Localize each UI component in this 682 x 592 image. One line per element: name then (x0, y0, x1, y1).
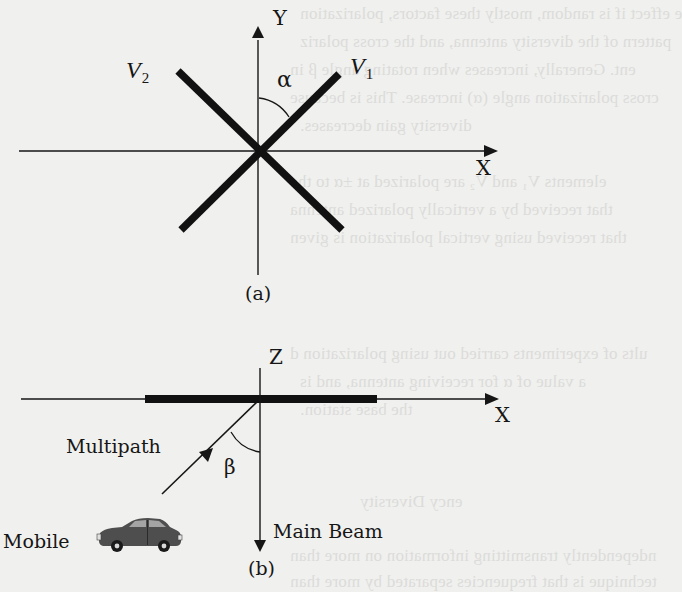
x-axis-label-b: X (495, 405, 510, 426)
diagram-b (21, 368, 499, 552)
antenna-label-v2: V2 (126, 58, 149, 82)
multipath-arrow-icon (199, 448, 213, 462)
angle-alpha-label: α (277, 69, 292, 91)
angle-beta-label: β (224, 457, 236, 477)
antenna-label-v1-subscript: 1 (366, 66, 374, 82)
z-axis-label-b: Z (269, 347, 283, 367)
main-beam-arrow-icon (254, 540, 266, 552)
multipath-ray (162, 402, 257, 494)
y-axis-label-a: Y (273, 8, 287, 29)
mobile-car-icon (97, 518, 182, 552)
y-axis-a-arrow-icon (252, 26, 264, 38)
diagram-a (19, 26, 498, 275)
angle-alpha-arc (259, 98, 289, 117)
caption-a: (a) (245, 284, 271, 303)
caption-b: (b) (248, 559, 275, 578)
main-beam-label: Main Beam (273, 522, 383, 541)
antenna-array-bar (145, 395, 377, 403)
antenna-label-v2-letter: V (126, 57, 141, 83)
angle-beta-arc (231, 432, 260, 452)
multipath-label: Multipath (66, 437, 161, 456)
mobile-label: Mobile (3, 532, 69, 551)
antenna-label-v1: V1 (350, 54, 373, 78)
x-axis-label-a: X (476, 158, 491, 179)
antenna-label-v1-letter: V (350, 53, 365, 79)
antenna-label-v2-subscript: 2 (142, 70, 150, 86)
